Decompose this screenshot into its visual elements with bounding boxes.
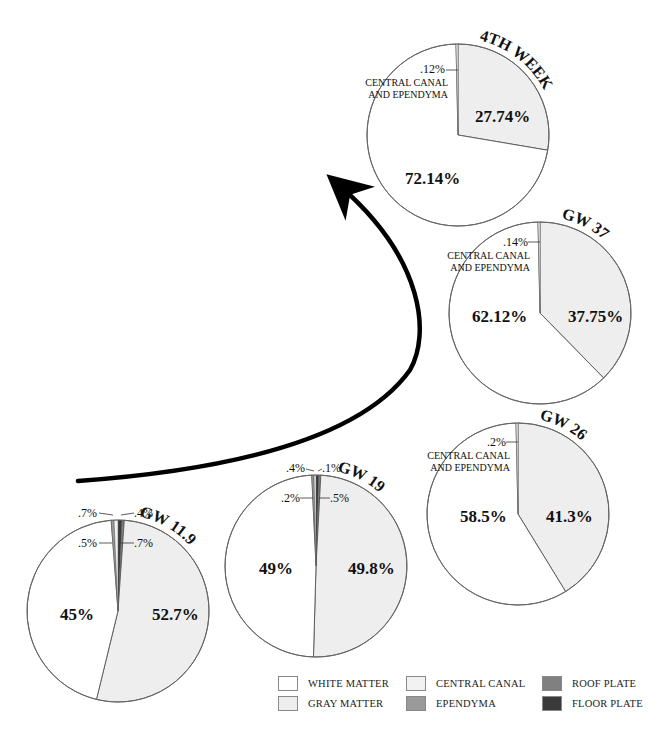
chart-svg: 52.7%45%.7%.4%.5%.7%GW 11.949.8%49%.4%.1… — [0, 0, 669, 741]
central-canal-label: AND EPENDYMA — [450, 262, 531, 273]
arrow-path — [78, 186, 420, 481]
leader-line — [99, 513, 113, 515]
legend-swatch-roof-plate — [542, 676, 562, 691]
central-canal-label: CENTRAL CANAL — [447, 250, 530, 261]
leader-line — [121, 513, 134, 515]
legend-item-white-matter: WHITE MATTER — [278, 674, 389, 692]
legend-item-central-canal: CENTRAL CANAL — [406, 674, 525, 692]
legend: WHITE MATTER GRAY MATTER CENTRAL CANAL E… — [278, 674, 669, 734]
legend-item-floor-plate: FLOOR PLATE — [542, 694, 643, 712]
slice-percent-label: 49% — [259, 559, 293, 578]
small-percent-label: .5% — [78, 536, 97, 550]
legend-item-gray-matter: GRAY MATTER — [278, 694, 383, 712]
small-percent-label: .7% — [78, 506, 97, 520]
small-percent-label: .2% — [281, 491, 300, 505]
small-percent-label: .14% — [503, 235, 528, 249]
legend-label: WHITE MATTER — [308, 678, 389, 689]
slice-percent-label: 27.74% — [475, 107, 530, 126]
slice-percent-label: 41.3% — [546, 507, 593, 526]
legend-swatch-white-matter — [278, 676, 298, 691]
pie-gw-26: 41.3%58.5%.2%CENTRAL CANALAND EPENDYMAGW… — [427, 406, 609, 605]
pies: 52.7%45%.7%.4%.5%.7%GW 11.949.8%49%.4%.1… — [27, 27, 631, 702]
small-percent-label: .5% — [330, 491, 349, 505]
slice-percent-label: 72.14% — [405, 169, 460, 188]
legend-label: FLOOR PLATE — [572, 698, 643, 709]
central-canal-label: AND EPENDYMA — [368, 89, 449, 100]
pie-gw-19: 49.8%49%.4%.1%.2%.5%GW 19 — [225, 458, 407, 657]
small-percent-label: .4% — [286, 461, 305, 475]
pie-gw-11-9: 52.7%45%.7%.4%.5%.7%GW 11.9 — [27, 503, 209, 702]
central-canal-label: AND EPENDYMA — [430, 462, 511, 473]
legend-swatch-ependyma — [406, 696, 426, 711]
slice-percent-label: 49.8% — [348, 559, 395, 578]
leader-line — [306, 469, 314, 471]
slice-percent-label: 45% — [60, 605, 94, 624]
legend-item-roof-plate: ROOF PLATE — [542, 674, 636, 692]
legend-swatch-gray-matter — [278, 696, 298, 711]
pie-chart-figure: 52.7%45%.7%.4%.5%.7%GW 11.949.8%49%.4%.1… — [0, 0, 669, 741]
progression-arrow — [78, 186, 420, 481]
legend-swatch-floor-plate — [542, 696, 562, 711]
legend-label: ROOF PLATE — [572, 678, 636, 689]
legend-label: EPENDYMA — [436, 698, 496, 709]
slice-percent-label: 58.5% — [460, 507, 507, 526]
central-canal-label: CENTRAL CANAL — [365, 77, 448, 88]
legend-label: GRAY MATTER — [308, 698, 383, 709]
slice-percent-label: 62.12% — [472, 307, 527, 326]
pie-4th-week: 27.74%72.14%.12%CENTRAL CANALAND EPENDYM… — [365, 27, 556, 226]
central-canal-label: CENTRAL CANAL — [427, 450, 510, 461]
slice-percent-label: 52.7% — [152, 605, 199, 624]
pie-gw-37: 37.75%62.12%.14%CENTRAL CANALAND EPENDYM… — [447, 205, 631, 404]
legend-item-ependyma: EPENDYMA — [406, 694, 496, 712]
slice-percent-label: 37.75% — [568, 307, 623, 326]
small-percent-label: .12% — [420, 62, 445, 76]
small-percent-label: .7% — [134, 536, 153, 550]
small-percent-label: .2% — [487, 435, 506, 449]
legend-swatch-central-canal — [406, 676, 426, 691]
legend-label: CENTRAL CANAL — [436, 678, 525, 689]
